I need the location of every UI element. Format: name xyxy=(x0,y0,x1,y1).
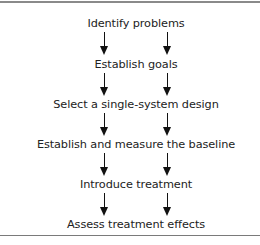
down-arrow-icon xyxy=(100,153,109,177)
down-arrow-icon xyxy=(100,113,109,137)
step-select-design: Select a single-system design xyxy=(0,98,260,112)
down-arrow-icon xyxy=(163,113,172,137)
down-arrow-icon xyxy=(100,193,109,217)
down-arrow-icon xyxy=(163,153,172,177)
bottom-border-rule xyxy=(0,235,260,236)
step-establish-goals: Establish goals xyxy=(0,58,260,72)
down-arrow-icon xyxy=(163,193,172,217)
step-introduce-treatment: Introduce treatment xyxy=(0,178,260,192)
step-assess-effects: Assess treatment effects xyxy=(0,218,260,232)
top-border-rule xyxy=(0,1,260,3)
down-arrow-icon xyxy=(100,32,109,56)
step-baseline: Establish and measure the baseline xyxy=(0,138,260,152)
down-arrow-icon xyxy=(163,73,172,97)
down-arrow-icon xyxy=(163,32,172,56)
down-arrow-icon xyxy=(100,73,109,97)
step-identify-problems: Identify problems xyxy=(0,17,260,31)
